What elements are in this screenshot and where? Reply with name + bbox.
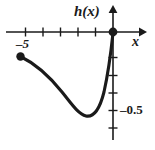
x-axis-label: x (132, 35, 139, 49)
origin-endpoint-dot (109, 28, 118, 37)
y-tick-label-neg-half: –0.5 (120, 103, 143, 116)
x-tick-label-neg5: –5 (16, 37, 29, 50)
left-endpoint-dot (16, 52, 24, 60)
function-label: h(x) (74, 4, 100, 19)
graph-canvas (0, 0, 155, 150)
curve-h (21, 33, 114, 116)
y-axis-arrowhead (109, 5, 118, 13)
x-axis-arrowhead (139, 28, 147, 37)
function-graph-figure: h(x) x –5 –0.5 (0, 0, 155, 150)
